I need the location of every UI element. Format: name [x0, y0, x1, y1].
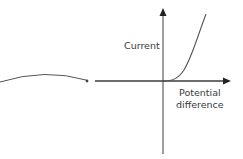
- diagram-canvas: [0, 0, 243, 159]
- x-axis-label-line2: difference: [176, 99, 224, 111]
- left-curve-endpoint-dot: [86, 80, 89, 83]
- iv-characteristic-diagram: Current Potential difference: [0, 0, 243, 159]
- left-curve-fragment: [0, 74, 86, 82]
- x-axis-label: Potential difference: [176, 87, 224, 111]
- iv-curve: [163, 14, 206, 81]
- x-axis-arrow-icon: [223, 78, 231, 85]
- x-axis-label-line1: Potential: [176, 87, 224, 99]
- y-axis-arrow-icon: [160, 8, 167, 16]
- y-axis-label: Current: [124, 40, 160, 52]
